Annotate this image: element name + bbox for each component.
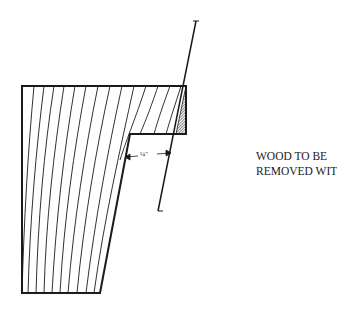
wood-grain [22, 86, 181, 293]
wood-block-outline [22, 86, 186, 293]
dimension-label: ¼" [140, 150, 148, 158]
wood-planing-diagram: ¼" WOOD TO BE REMOVED WITH PLANE [0, 0, 337, 317]
plane-line [158, 21, 196, 211]
